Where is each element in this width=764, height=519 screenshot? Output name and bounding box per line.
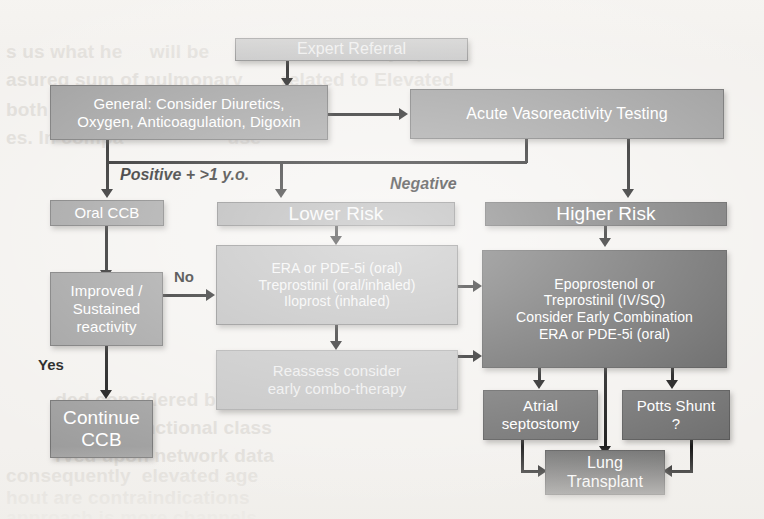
node-improved-sustained-reactivity[interactable]: Improved / Sustained reactivity [50,272,163,346]
node-lower-meds-line3: Iloprost (inhaled) [280,293,394,310]
node-lower-meds-line1: ERA or PDE-5i (oral) [267,260,406,277]
node-acute-vasoreactivity-testing[interactable]: Acute Vasoreactivity Testing [410,89,724,139]
node-higher-risk-label: Higher Risk [552,203,659,225]
node-higher-meds-line3: Consider Early Combination [512,309,697,326]
node-higher-meds-line2: Treprostinil (IV/SQ) [540,292,669,309]
node-higher-risk-medications[interactable]: Epoprostenol or Treprostinil (IV/SQ) Con… [482,250,727,368]
edge-referral-to-general [286,60,289,80]
edge-general-down-stub [106,139,109,163]
edge-general-to-acute [328,113,400,116]
arrowhead-lowermeds-to-reassess [330,341,342,350]
flowchart-page: s us what he will be with the World Symp… [0,0,764,519]
edge-label-negative: Negative [390,175,457,193]
edge-improved-to-lowermeds [163,294,208,297]
edge-potts-to-lung [670,470,693,473]
node-lower-risk[interactable]: Lower Risk [217,202,455,226]
node-higher-meds-line4: ERA or PDE-5i (oral) [535,326,674,343]
arrowhead-negative-to-lowerrisk [275,189,287,198]
arrowhead-highermeds-to-potts [666,380,678,389]
edge-potts-down [690,440,693,472]
arrowhead-reassess-to-highermeds [473,350,482,362]
edge-highermeds-to-lung [604,368,607,448]
node-higher-meds-line1: Epoprostenol or [550,276,658,293]
edge-improved-to-continue [105,346,108,392]
bleed-line-18: approach is more channels [0,504,764,519]
arrowhead-to-higherrisk [622,189,634,198]
node-expert-referral-label: Expert Referral [293,40,410,59]
node-improved-line3: reactivity [72,318,140,336]
arrowhead-highermeds-to-atrial [533,380,545,389]
node-improved-line1: Improved / [67,282,147,300]
node-general-line2: Oxygen, Anticoagulation, Digoxin [73,113,304,131]
node-higher-risk[interactable]: Higher Risk [485,202,727,226]
node-lower-risk-medications[interactable]: ERA or PDE-5i (oral) Treprostinil (oral/… [216,245,458,325]
node-reassess-line1: Reassess consider [269,362,405,380]
node-lung-transplant[interactable]: Lung Transplant [545,450,665,495]
node-atrial-septostomy[interactable]: Atrial septostomy [483,390,598,440]
node-continue-ccb-line2: CCB [77,429,125,451]
edge-positive-to-oralccb [106,161,109,191]
node-lung-line1: Lung [583,454,627,473]
edge-label-no: No [174,268,194,285]
edge-label-yes: Yes [38,356,64,373]
node-lung-line2: Transplant [563,473,647,492]
edge-label-positive: Positive + >1 y.o. [120,166,249,184]
edge-atrial-down [521,440,524,472]
node-oral-ccb-label: Oral CCB [71,204,144,222]
node-potts-shunt[interactable]: Potts Shunt ? [622,390,730,440]
edge-acute-down-right-stub [627,139,630,175]
node-lower-risk-label: Lower Risk [285,203,388,225]
arrowhead-lowerrisk-to-lowermeds [330,236,342,245]
edge-negative-horizontal [280,161,527,164]
node-general-line1: General: Consider Diuretics, [89,95,288,113]
arrowhead-improved-to-continue [100,390,112,399]
arrowhead-positive-to-oralccb [101,189,113,198]
node-continue-ccb-line1: Continue [59,407,144,429]
node-acute-label: Acute Vasoreactivity Testing [462,105,671,124]
node-atrial-line2: septostomy [498,415,584,433]
edge-negative-to-lowerrisk [280,161,283,191]
node-potts-line1: Potts Shunt [633,397,720,415]
node-atrial-line1: Atrial [519,397,562,415]
edge-oralccb-to-improved [105,226,108,272]
node-potts-line2: ? [668,415,684,433]
node-general[interactable]: General: Consider Diuretics, Oxygen, Ant… [50,85,328,140]
arrowhead-general-to-acute [399,108,408,120]
arrowhead-higherrisk-to-highermeds [599,238,611,247]
node-expert-referral[interactable]: Expert Referral [235,38,468,61]
arrowhead-lowermeds-to-highermeds [473,280,482,292]
node-improved-line2: Sustained [69,300,145,318]
node-reassess-combo-therapy[interactable]: Reassess consider early combo-therapy [216,350,458,410]
arrowhead-improved-to-lowermeds [206,289,215,301]
edge-acute-down-left-stub [525,139,528,163]
node-continue-ccb[interactable]: Continue CCB [50,400,153,458]
node-reassess-line2: early combo-therapy [264,380,411,398]
node-lower-meds-line2: Treprostinil (oral/inhaled) [254,277,419,294]
node-oral-ccb[interactable]: Oral CCB [50,200,164,226]
